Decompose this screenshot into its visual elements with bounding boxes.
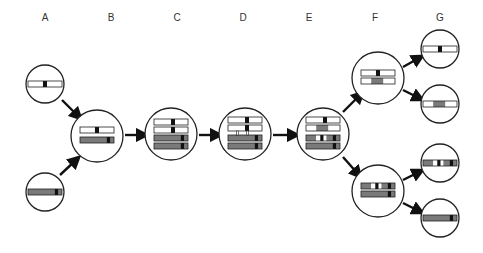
- chromosome-bar: [361, 70, 395, 76]
- cell-membrane: [145, 108, 197, 160]
- cell-g4: [421, 199, 459, 237]
- chromosome-bar: [423, 215, 457, 221]
- arrow-5: [343, 95, 360, 112]
- diagram-stage: ABCDEFG: [0, 0, 483, 253]
- cell-g3: [421, 144, 459, 182]
- cell-e: [297, 108, 349, 160]
- chromosome-bar: [361, 78, 395, 84]
- chromosome-bar: [154, 143, 188, 149]
- chromosome-bar: [361, 191, 395, 197]
- chromosome-bar: [154, 119, 188, 125]
- chromosome-bar: [361, 183, 395, 189]
- arrow-6: [343, 157, 358, 174]
- crossover-link: [237, 131, 239, 135]
- arrow-7: [403, 58, 419, 67]
- chromosome-bar: [228, 143, 262, 149]
- chromosome-bar: [423, 46, 457, 52]
- arrow-1: [60, 160, 76, 175]
- arrow-10: [403, 203, 419, 211]
- cell-d: [219, 108, 271, 160]
- chromosome-bar: [228, 117, 262, 123]
- chromosome-bar: [306, 135, 340, 141]
- cell-g2: [421, 85, 459, 123]
- arrow-8: [403, 90, 419, 98]
- cell-a2: [26, 173, 64, 211]
- cell-c: [145, 108, 197, 160]
- cell-membrane: [219, 108, 271, 160]
- arrow-9: [403, 172, 419, 180]
- chromosome-bar: [306, 125, 340, 131]
- chromosome-bar: [228, 125, 262, 131]
- cell-f1: [352, 52, 404, 104]
- chromosome-bar: [154, 135, 188, 141]
- chromosome-bar: [80, 137, 114, 143]
- chromosome-bar: [306, 143, 340, 149]
- chromosome-bar: [154, 127, 188, 133]
- cell-a1: [26, 65, 64, 103]
- cell-b: [71, 110, 123, 162]
- chromosome-bar: [28, 189, 62, 195]
- crossover-link: [247, 131, 249, 135]
- chromosome-bar: [306, 117, 340, 123]
- chromosome-bar: [423, 160, 457, 166]
- cell-g1: [421, 30, 459, 68]
- cell-lineage-diagram: [0, 0, 483, 253]
- cell-f2: [352, 165, 404, 217]
- chromosome-bar: [80, 127, 114, 133]
- arrow-0: [62, 100, 78, 116]
- cells-layer: [26, 30, 459, 237]
- chromosome-bar: [28, 81, 62, 87]
- chromosome-bar: [228, 135, 262, 141]
- cell-membrane: [297, 108, 349, 160]
- cell-membrane: [71, 110, 123, 162]
- chromosome-bar: [423, 101, 457, 107]
